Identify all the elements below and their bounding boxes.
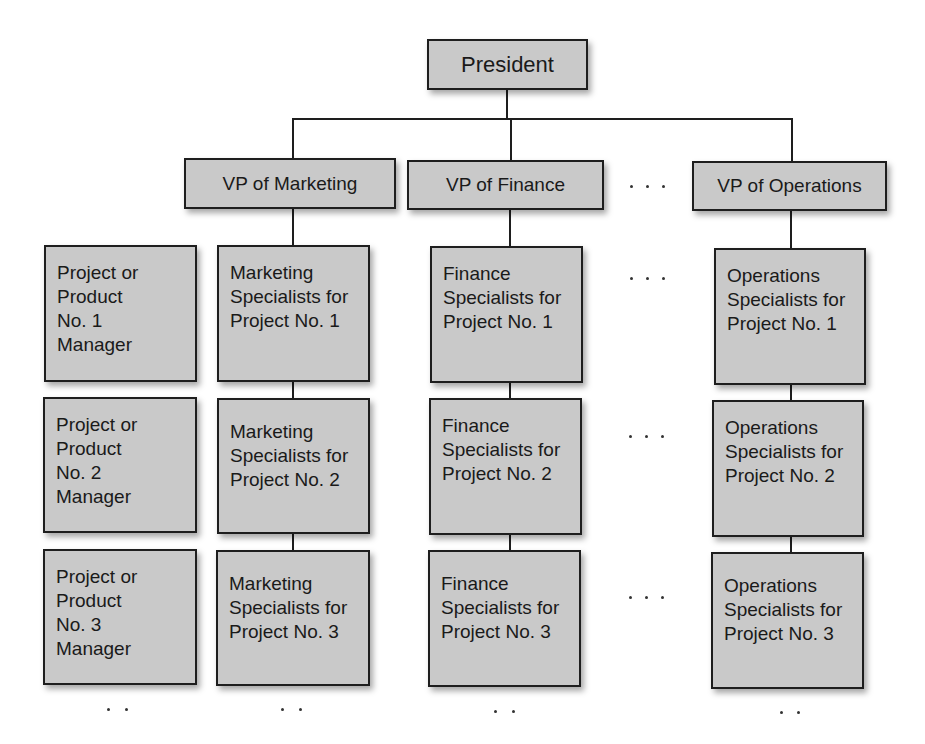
vp-finance-label: VP of Finance (446, 173, 565, 197)
ellipsis-dot (630, 277, 633, 280)
ellipsis-dot (662, 277, 665, 280)
operations-specialists-box-2: Operations Specialists for Project No. 2 (712, 400, 864, 537)
vp-operations-label: VP of Operations (717, 174, 861, 198)
operations-specialists-box-3: Operations Specialists for Project No. 3 (711, 552, 864, 689)
president-box: President (427, 39, 588, 90)
operations-specialists-label-1: Operations Specialists for Project No. 1 (727, 264, 845, 336)
continuation-dot (780, 711, 783, 714)
manager-label-3: Project or Product No. 3 Manager (56, 565, 137, 661)
continuation-dot (512, 710, 515, 713)
marketing-specialists-label-2: Marketing Specialists for Project No. 2 (230, 420, 348, 492)
vp-operations-box: VP of Operations (692, 161, 887, 211)
finance-specialists-label-1: Finance Specialists for Project No. 1 (443, 262, 561, 334)
continuation-dot (107, 708, 110, 711)
president-label: President (461, 53, 554, 77)
continuation-dot (494, 710, 497, 713)
connector-to-vp-operations (791, 118, 793, 162)
marketing-specialists-box-2: Marketing Specialists for Project No. 2 (217, 398, 370, 534)
finance-specialists-box-3: Finance Specialists for Project No. 3 (428, 550, 581, 687)
continuation-dot (125, 708, 128, 711)
manager-label-2: Project or Product No. 2 Manager (56, 413, 137, 509)
finance-specialists-box-1: Finance Specialists for Project No. 1 (430, 246, 583, 383)
finance-specialists-label-3: Finance Specialists for Project No. 3 (441, 572, 559, 644)
ellipsis-dot (645, 596, 648, 599)
marketing-specialists-label-1: Marketing Specialists for Project No. 1 (230, 261, 348, 333)
operations-specialists-label-3: Operations Specialists for Project No. 3 (724, 574, 842, 646)
connector-horizontal-vps (292, 118, 793, 120)
ellipsis-dot (646, 277, 649, 280)
vp-marketing-box: VP of Marketing (184, 158, 396, 209)
marketing-specialists-box-1: Marketing Specialists for Project No. 1 (217, 245, 370, 382)
manager-box-3: Project or Product No. 3 Manager (43, 549, 197, 685)
ellipsis-dot (661, 435, 664, 438)
marketing-specialists-label-3: Marketing Specialists for Project No. 3 (229, 572, 347, 644)
ellipsis-dot (661, 596, 664, 599)
manager-label-1: Project or Product No. 1 Manager (57, 261, 138, 357)
vp-finance-box: VP of Finance (407, 160, 604, 210)
connector-to-vp-finance (510, 118, 512, 162)
operations-specialists-box-1: Operations Specialists for Project No. 1 (714, 248, 866, 385)
ellipsis-dot (645, 435, 648, 438)
ellipsis-dot (629, 435, 632, 438)
ellipsis-dot (629, 596, 632, 599)
ellipsis-dot (662, 185, 665, 188)
vp-marketing-label: VP of Marketing (223, 172, 358, 196)
continuation-dot (797, 711, 800, 714)
connector-president-down (506, 89, 508, 120)
ellipsis-dot (630, 185, 633, 188)
operations-specialists-label-2: Operations Specialists for Project No. 2 (725, 416, 843, 488)
manager-box-1: Project or Product No. 1 Manager (44, 245, 197, 382)
finance-specialists-label-2: Finance Specialists for Project No. 2 (442, 414, 560, 486)
continuation-dot (281, 708, 284, 711)
ellipsis-dot (646, 185, 649, 188)
connector-to-vp-marketing (292, 118, 294, 160)
manager-box-2: Project or Product No. 2 Manager (43, 397, 197, 533)
finance-specialists-box-2: Finance Specialists for Project No. 2 (429, 398, 582, 535)
continuation-dot (299, 708, 302, 711)
marketing-specialists-box-3: Marketing Specialists for Project No. 3 (216, 550, 370, 686)
